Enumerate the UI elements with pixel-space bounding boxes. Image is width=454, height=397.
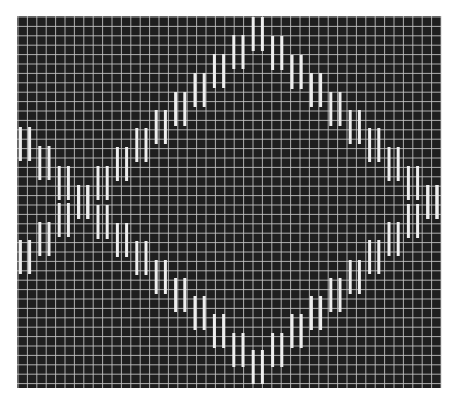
signal-bar — [280, 333, 283, 367]
signal-bar — [358, 110, 361, 144]
signal-bar — [349, 110, 352, 144]
signal-bar — [232, 35, 235, 69]
plot-background — [17, 16, 441, 388]
signal-bar — [397, 222, 400, 256]
signal-bar — [436, 185, 439, 219]
signal-bar — [86, 185, 89, 219]
signal-bar — [300, 55, 303, 89]
signal-bar — [252, 17, 255, 51]
signal-bar — [155, 260, 158, 294]
signal-bar — [222, 54, 225, 88]
signal-bar — [407, 204, 410, 238]
signal-bar — [329, 92, 332, 126]
signal-bar — [145, 241, 148, 275]
signal-bar — [397, 147, 400, 181]
oscilloscope-figure — [0, 0, 454, 397]
signal-bar — [116, 147, 119, 181]
signal-bar — [164, 110, 167, 144]
signal-bar — [106, 166, 109, 200]
signal-bar — [377, 240, 380, 274]
signal-bar — [261, 350, 264, 384]
signal-bar — [183, 92, 186, 126]
signal-bar — [319, 296, 322, 330]
signal-bar — [77, 185, 80, 219]
signal-bar — [28, 240, 31, 274]
signal-bar — [310, 73, 313, 107]
signal-bar — [242, 35, 245, 69]
signal-bar — [416, 204, 419, 238]
signal-bar — [368, 240, 371, 274]
signal-bar — [339, 92, 342, 126]
signal-bar — [48, 222, 51, 256]
signal-bar — [135, 128, 138, 162]
signal-bar — [174, 92, 177, 126]
signal-bar — [310, 296, 313, 330]
signal-bar — [116, 223, 119, 257]
signal-bar — [329, 278, 332, 312]
signal-bar — [358, 260, 361, 294]
signal-bar — [164, 260, 167, 294]
signal-bar — [183, 278, 186, 312]
signal-bar — [388, 222, 391, 256]
signal-bar — [194, 73, 197, 107]
signal-bar — [271, 36, 274, 70]
signal-bar — [38, 146, 41, 180]
signal-bar — [280, 36, 283, 70]
signal-bar — [174, 278, 177, 312]
signal-bar — [155, 110, 158, 144]
signal-bar — [416, 166, 419, 200]
signal-bar — [48, 146, 51, 180]
signal-bar — [106, 205, 109, 239]
signal-bar — [349, 260, 352, 294]
signal-bar — [300, 314, 303, 348]
signal-bar — [368, 128, 371, 162]
signal-bar — [125, 147, 128, 181]
signal-bar — [261, 17, 264, 51]
signal-bar — [232, 333, 235, 367]
signal-bar — [271, 333, 274, 367]
signal-bar — [388, 147, 391, 181]
signal-bar — [407, 166, 410, 200]
signal-bar — [19, 127, 22, 161]
signal-bar — [28, 127, 31, 161]
signal-bar — [203, 296, 206, 330]
signal-bar — [67, 166, 70, 200]
signal-bar — [135, 241, 138, 275]
signal-bar — [426, 185, 429, 219]
signal-bar — [291, 314, 294, 348]
signal-bar — [319, 73, 322, 107]
signal-bar — [38, 222, 41, 256]
signal-bar — [194, 296, 197, 330]
signal-bar — [145, 128, 148, 162]
signal-bar — [19, 240, 22, 274]
signal-bar — [67, 203, 70, 237]
signal-bar — [213, 54, 216, 88]
signal-bar — [213, 314, 216, 348]
signal-bar — [58, 166, 61, 200]
signal-bar — [291, 55, 294, 89]
signal-bar — [377, 128, 380, 162]
signal-bar — [58, 203, 61, 237]
signal-bar — [203, 73, 206, 107]
signal-bar — [252, 350, 255, 384]
signal-bar — [222, 314, 225, 348]
signal-bar — [97, 166, 100, 200]
signal-bar — [97, 205, 100, 239]
signal-bar — [339, 278, 342, 312]
signal-bar — [125, 223, 128, 257]
signal-bar — [242, 333, 245, 367]
